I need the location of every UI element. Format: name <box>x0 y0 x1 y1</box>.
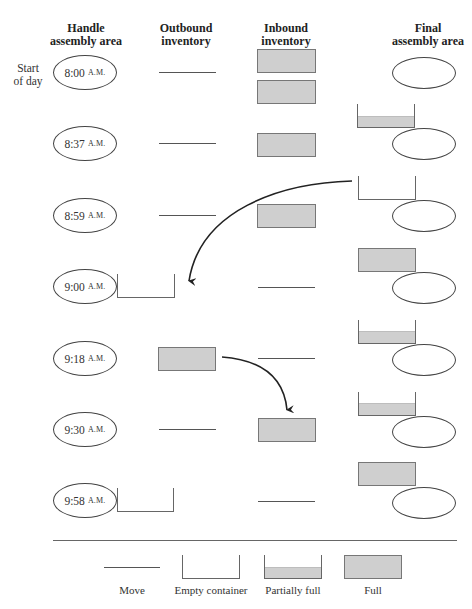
legend-label-partially-full: Partially full <box>255 584 331 596</box>
legend-label-empty-container: Empty container <box>171 584 251 596</box>
flow-arrows <box>0 0 472 609</box>
legend-move-symbol <box>104 567 160 568</box>
arrow-outbound-to-inbound <box>222 357 287 410</box>
legend-full-container-symbol <box>344 555 402 579</box>
arrow-final-to-outbound <box>189 181 352 281</box>
partial-fill <box>265 567 321 578</box>
legend-divider <box>53 540 457 541</box>
legend-label-move: Move <box>104 584 160 596</box>
legend-empty-container-symbol <box>182 555 240 579</box>
legend-label-full: Full <box>344 584 402 596</box>
legend-partial-container-symbol <box>264 555 322 579</box>
